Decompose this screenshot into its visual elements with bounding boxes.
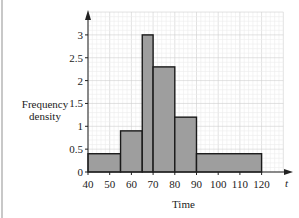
y-axis-label-line1: Frequency: [10, 98, 80, 110]
y-axis-arrow-icon: [85, 10, 91, 20]
svg-text:80: 80: [169, 178, 181, 190]
svg-text:50: 50: [104, 178, 116, 190]
svg-text:100: 100: [210, 178, 227, 190]
svg-text:40: 40: [83, 178, 95, 190]
svg-text:3: 3: [78, 29, 84, 41]
svg-text:60: 60: [126, 178, 138, 190]
histogram-bar: [142, 35, 153, 172]
x-axis-arrow-icon: [284, 169, 293, 175]
y-axis-label-line2: density: [10, 110, 80, 122]
svg-text:1: 1: [78, 120, 84, 132]
histogram-bar: [175, 117, 197, 172]
histogram-bar: [153, 67, 175, 172]
x-axis-label: Time: [172, 198, 195, 210]
histogram-bar: [121, 131, 143, 172]
histogram-bar: [88, 154, 121, 172]
svg-text:70: 70: [148, 178, 160, 190]
x-axis-symbol: t: [285, 177, 288, 189]
svg-text:0.5: 0.5: [69, 143, 83, 155]
svg-text:0: 0: [78, 166, 84, 178]
svg-text:110: 110: [232, 178, 249, 190]
svg-text:120: 120: [253, 178, 270, 190]
y-axis-label: Frequency density: [10, 98, 80, 122]
svg-text:2.5: 2.5: [69, 52, 83, 64]
svg-text:2: 2: [78, 75, 84, 87]
svg-text:90: 90: [191, 178, 203, 190]
histogram-bar: [197, 154, 262, 172]
